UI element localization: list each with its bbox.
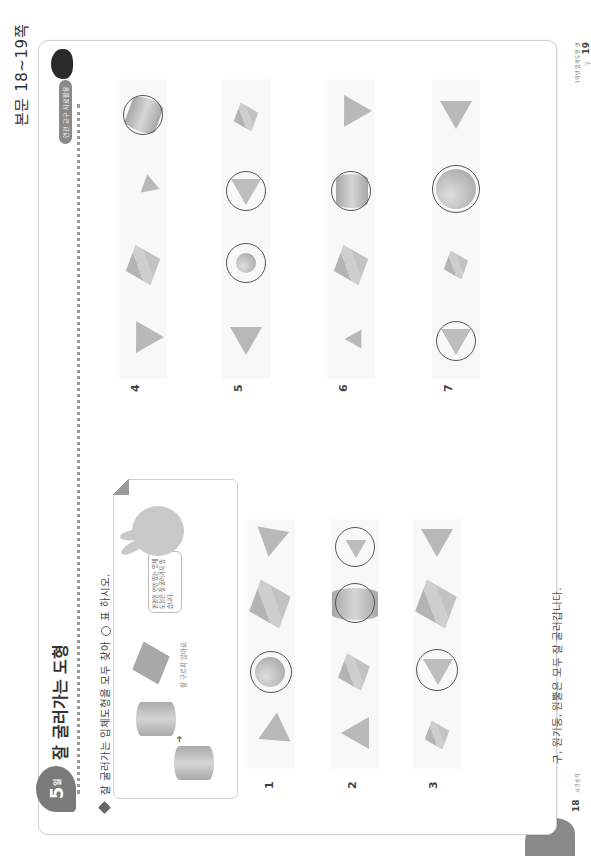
problem-row-4 — [119, 79, 167, 379]
answer-circle — [416, 649, 458, 691]
example-caption: 잘 구르지 않아요 — [178, 642, 188, 688]
problem-row-7 — [432, 79, 480, 379]
bunny-mascot-icon — [132, 506, 184, 556]
circle-mark-icon — [101, 626, 111, 636]
pyramid-icon[interactable] — [345, 329, 362, 348]
problem-number: 1 — [263, 781, 276, 789]
answer-circle — [331, 171, 371, 211]
answer-circle — [226, 243, 266, 283]
answer-circle — [335, 527, 375, 567]
cylinder-icon — [174, 746, 214, 780]
cube-icon[interactable] — [338, 653, 370, 691]
pyramid-icon[interactable] — [134, 174, 159, 200]
speech-bubble: 평평한 면만 있는 입체도형은 잘 굴러가지 않습니다. — [148, 551, 182, 613]
problem-number: 7 — [442, 384, 455, 392]
answer-circle — [250, 651, 292, 693]
resource-badge: 연관 교구 자료활용 — [59, 80, 72, 144]
problem-row-1 — [247, 519, 295, 769]
pyramid-icon[interactable] — [421, 529, 453, 557]
problem-number: 2 — [346, 781, 359, 789]
pyramid-icon[interactable] — [253, 526, 289, 559]
problem-row-3 — [413, 519, 461, 769]
problem-row-6 — [327, 79, 375, 379]
cylinder-icon — [136, 702, 176, 736]
pyramid-icon[interactable] — [440, 101, 472, 129]
dotted-divider — [77, 104, 80, 794]
cube-icon[interactable] — [425, 721, 449, 750]
cube-icon[interactable] — [234, 103, 258, 132]
answer-circle — [436, 321, 476, 361]
problem-row-2 — [331, 519, 379, 769]
pyramid-icon[interactable] — [122, 321, 164, 361]
footer-left: 18시간생각 — [571, 773, 581, 812]
cube-icon[interactable] — [444, 251, 468, 280]
problem-number: 5 — [232, 384, 245, 392]
pyramid-icon[interactable] — [230, 327, 262, 355]
cube-icon[interactable] — [334, 245, 368, 286]
page-reference: 본문 18~19쪽 — [10, 24, 31, 126]
pyramid-icon[interactable] — [252, 713, 291, 754]
cube-icon[interactable] — [249, 579, 291, 628]
pyramid-icon[interactable] — [330, 95, 372, 135]
cube-icon — [132, 641, 169, 684]
cube-icon[interactable] — [126, 245, 160, 286]
page-fold-icon — [113, 479, 129, 495]
workbook-spread: 5일 잘 굴러가는 도형 연관 교구 자료활용 잘 굴러가는 입체도형을 모두 … — [38, 40, 557, 835]
day-badge: 5일 — [36, 766, 76, 812]
answer-circle — [226, 171, 266, 211]
example-box: ➜ 잘 구르지 않아요 평평한 면만 있는 입체도형은 잘 굴러가지 않습니다. — [113, 479, 238, 799]
problem-number: 4 — [129, 384, 142, 392]
hint-note: 구, 원기둥, 원뿔은 모두 잘 굴러갑니다. — [549, 587, 564, 764]
footer-right: 1학년 입체도형 연구19 — [571, 42, 591, 94]
arrow-icon: ➜ — [174, 735, 184, 743]
cube-icon[interactable] — [415, 579, 457, 628]
instruction: 잘 굴러가는 입체도형을 모두 찾아 표 하시오. — [97, 574, 112, 812]
page-title: 잘 굴러가는 도형 — [47, 644, 71, 760]
answer-circle — [335, 583, 375, 623]
problem-row-5 — [222, 79, 270, 379]
problem-number: 3 — [427, 781, 440, 789]
problem-number: 6 — [337, 384, 350, 392]
answer-circle — [123, 95, 163, 135]
answer-circle — [432, 165, 480, 213]
mascot-icon — [51, 49, 73, 79]
pencil-icon — [98, 801, 111, 814]
pyramid-icon[interactable] — [341, 717, 369, 749]
